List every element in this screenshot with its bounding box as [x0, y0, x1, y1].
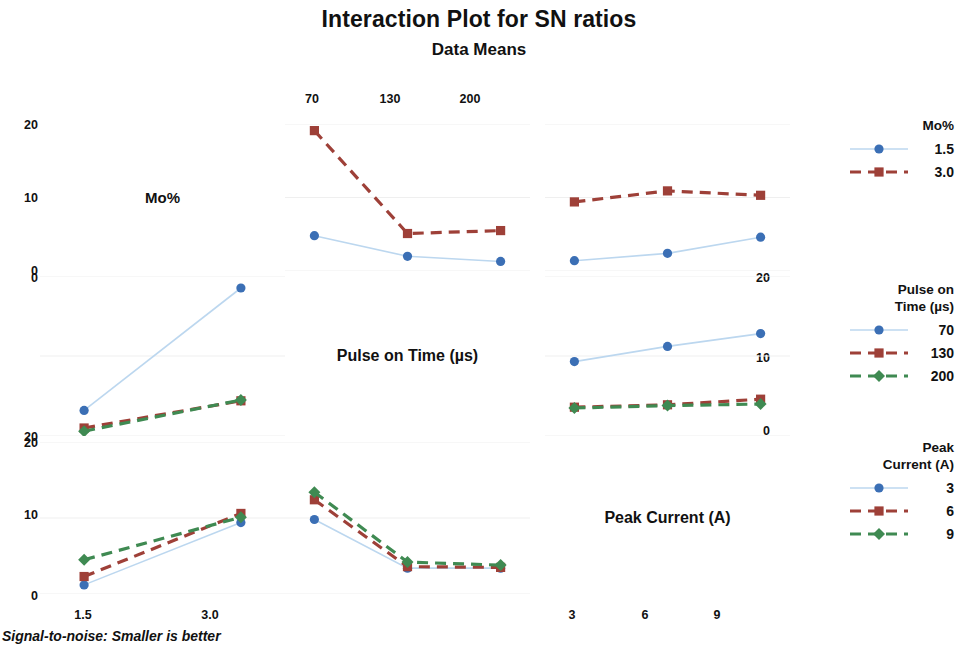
- data-point-marker: [570, 256, 579, 265]
- data-point-marker: [663, 342, 672, 351]
- data-point-marker: [663, 186, 672, 195]
- panel-r1-c0: [40, 276, 285, 436]
- data-point-marker: [874, 507, 883, 516]
- page-subtitle: Data Means: [0, 40, 958, 60]
- data-point-marker: [756, 233, 765, 242]
- x-tick-bottom-3: 3: [552, 608, 592, 622]
- panel-label-0-0: Mo%: [40, 124, 285, 271]
- data-point-marker: [80, 572, 89, 581]
- y-tick-r0-20: 20: [2, 118, 38, 132]
- legend-title-line: Peak: [790, 440, 954, 457]
- panel-plot-r1-c2: [545, 276, 790, 436]
- panel-plot-r0-c2: [545, 124, 790, 271]
- data-point-marker: [756, 329, 765, 338]
- series-line: [84, 400, 241, 431]
- legend-square-icon: [848, 502, 910, 520]
- legend-label: 3: [920, 480, 954, 496]
- data-point-marker: [874, 145, 883, 154]
- y-tick-r0-10: 10: [2, 191, 38, 205]
- y-tick-r1-0: 0: [2, 271, 38, 285]
- data-point-marker: [873, 370, 885, 382]
- series-line: [314, 131, 500, 234]
- legend-title-line: Current (A): [790, 457, 954, 474]
- x-tick-bottom-6: 6: [625, 608, 665, 622]
- data-point-marker: [403, 252, 412, 261]
- x-tick-top-200: 200: [450, 92, 490, 106]
- y-tick-r2-10: 10: [2, 508, 38, 522]
- data-point-marker: [80, 580, 89, 589]
- page-title: Interaction Plot for SN ratios: [0, 6, 958, 33]
- data-point-marker: [873, 528, 885, 540]
- x-tick-bottom-1-5: 1.5: [63, 608, 103, 622]
- factor-name: Peak Current (A): [604, 509, 730, 527]
- y-tick-r2-20: 20: [2, 436, 38, 450]
- legend-item[interactable]: 70: [790, 319, 954, 342]
- y-tick-r2-0: 0: [2, 589, 38, 603]
- interaction-plot-matrix: Interaction Plot for SN ratios Data Mean…: [0, 0, 958, 669]
- data-point-marker: [236, 283, 245, 292]
- factor-name: Mo%: [145, 189, 180, 206]
- data-point-marker: [874, 168, 883, 177]
- panel-plot-r1-c0: [40, 276, 285, 436]
- legend-square-icon: [848, 163, 910, 181]
- legend-diamond-icon: [848, 367, 910, 385]
- legend-item[interactable]: 9: [790, 523, 954, 546]
- legend-title-line: Pulse on: [790, 282, 954, 299]
- data-point-marker: [570, 357, 579, 366]
- legend-label: 1.5: [920, 141, 954, 157]
- data-point-marker: [496, 226, 505, 235]
- data-point-marker: [80, 406, 89, 415]
- legend-item[interactable]: 1.5: [790, 138, 954, 161]
- legend-item[interactable]: 6: [790, 500, 954, 523]
- panel-r2-c0: [40, 442, 285, 594]
- x-tick-top-130: 130: [370, 92, 410, 106]
- legend-label: 130: [920, 345, 954, 361]
- legend-title: PeakCurrent (A): [790, 440, 954, 474]
- data-point-marker: [874, 484, 883, 493]
- legend-item[interactable]: 130: [790, 342, 954, 365]
- x-tick-top-70: 70: [292, 92, 332, 106]
- mo-legend: Mo%1.53.0: [790, 118, 954, 184]
- panel-r0-c1: [285, 124, 530, 271]
- series-line: [84, 288, 241, 410]
- legend-item[interactable]: 200: [790, 365, 954, 388]
- panel-label-2-2: Peak Current (A): [545, 442, 790, 594]
- panel-plot-r0-c1: [285, 124, 530, 271]
- data-point-marker: [496, 257, 505, 266]
- legend-label: 9: [920, 526, 954, 542]
- legend-title-line: Time (µs): [790, 299, 954, 316]
- legend-circle-icon: [848, 140, 910, 158]
- panel-plot-r2-c1: [285, 442, 530, 594]
- data-point-marker: [874, 326, 883, 335]
- legend-title: Mo%: [790, 118, 954, 135]
- x-tick-bottom-3-0: 3.0: [190, 608, 230, 622]
- legend-label: 6: [920, 503, 954, 519]
- peak-legend: PeakCurrent (A)369: [790, 440, 954, 546]
- legend-circle-icon: [848, 479, 910, 497]
- data-point-marker: [663, 249, 672, 258]
- legend-title-line: Mo%: [790, 118, 954, 135]
- legend-square-icon: [848, 344, 910, 362]
- data-point-marker: [403, 229, 412, 238]
- panel-plot-r2-c0: [40, 442, 285, 594]
- legend-circle-icon: [848, 321, 910, 339]
- legend-item[interactable]: 3.0: [790, 161, 954, 184]
- legend-item[interactable]: 3: [790, 477, 954, 500]
- data-point-marker: [310, 126, 319, 135]
- x-tick-bottom-9: 9: [697, 608, 737, 622]
- pulse-legend: Pulse onTime (µs)70130200: [790, 282, 954, 388]
- data-point-marker: [310, 515, 319, 524]
- data-point-marker: [78, 554, 90, 566]
- panel-r2-c1: [285, 442, 530, 594]
- legend-label: 70: [920, 322, 954, 338]
- legend-label: 200: [920, 368, 954, 384]
- footnote: Signal-to-noise: Smaller is better: [2, 628, 221, 644]
- factor-name: Pulse on Time (µs): [337, 347, 478, 365]
- series-line: [84, 513, 241, 576]
- data-point-marker: [874, 349, 883, 358]
- legend-diamond-icon: [848, 525, 910, 543]
- data-point-marker: [756, 191, 765, 200]
- legend-label: 3.0: [920, 164, 954, 180]
- legend-title: Pulse onTime (µs): [790, 282, 954, 316]
- series-line: [314, 492, 500, 565]
